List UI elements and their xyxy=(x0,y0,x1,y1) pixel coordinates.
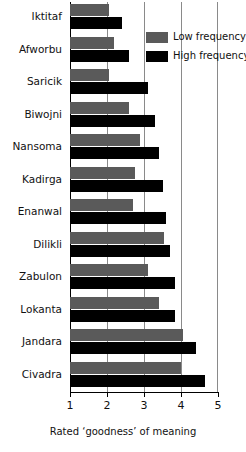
bar-chart: IktitafAfworbuSaricikBiwojniNansomaKadir… xyxy=(0,0,246,452)
bar-group xyxy=(70,165,218,198)
bar-high-frequency xyxy=(70,50,129,62)
category-label: Dilikli xyxy=(0,238,62,250)
category-label: Civadra xyxy=(0,368,62,380)
legend-swatch-low-frequency xyxy=(146,32,168,43)
chart-legend: Low frequency High frequency xyxy=(146,30,246,68)
bar-group xyxy=(70,100,218,133)
bar-high-frequency xyxy=(70,147,159,159)
legend-item-low-frequency: Low frequency xyxy=(146,30,246,46)
category-label: Lokanta xyxy=(0,303,62,315)
bar-group xyxy=(70,327,218,360)
bar-high-frequency xyxy=(70,310,175,322)
category-label: Kadirga xyxy=(0,173,62,185)
bar-high-frequency xyxy=(70,82,148,94)
bar-low-frequency xyxy=(70,264,148,276)
bar-low-frequency xyxy=(70,4,109,16)
category-label: Afworbu xyxy=(0,43,62,55)
x-axis-title: Rated ‘goodness’ of meaning xyxy=(0,425,246,438)
bar-high-frequency xyxy=(70,212,166,224)
bar-group xyxy=(70,197,218,230)
category-label: Iktitaf xyxy=(0,10,62,22)
legend-label-high-frequency: High frequency xyxy=(173,49,246,63)
bar-low-frequency xyxy=(70,69,109,81)
bar-group xyxy=(70,295,218,328)
category-label: Biwojni xyxy=(0,108,62,120)
bar-low-frequency xyxy=(70,199,133,211)
category-label: Zabulon xyxy=(0,270,62,282)
bar-high-frequency xyxy=(70,17,122,29)
bar-high-frequency xyxy=(70,245,170,257)
x-tick xyxy=(70,392,71,397)
bar-low-frequency xyxy=(70,167,135,179)
x-tick xyxy=(218,392,219,397)
bar-high-frequency xyxy=(70,342,196,354)
bar-low-frequency xyxy=(70,329,183,341)
bar-group xyxy=(70,67,218,100)
x-tick-label: 5 xyxy=(208,399,228,412)
category-labels: IktitafAfworbuSaricikBiwojniNansomaKadir… xyxy=(0,2,66,392)
category-label: Jandara xyxy=(0,335,62,347)
legend-label-low-frequency: Low frequency xyxy=(173,30,246,44)
category-label: Nansoma xyxy=(0,140,62,152)
bar-high-frequency xyxy=(70,277,175,289)
bar-low-frequency xyxy=(70,232,164,244)
x-tick-label: 2 xyxy=(97,399,117,412)
legend-swatch-high-frequency xyxy=(146,51,168,62)
x-tick xyxy=(107,392,108,397)
bar-group xyxy=(70,230,218,263)
category-label: Enanwal xyxy=(0,205,62,217)
x-tick xyxy=(181,392,182,397)
x-tick-label: 3 xyxy=(134,399,154,412)
bar-low-frequency xyxy=(70,362,181,374)
bar-group xyxy=(70,262,218,295)
x-tick-label: 4 xyxy=(171,399,191,412)
bar-low-frequency xyxy=(70,102,129,114)
bar-low-frequency xyxy=(70,297,159,309)
bar-group xyxy=(70,360,218,393)
legend-item-high-frequency: High frequency xyxy=(146,49,246,65)
bar-high-frequency xyxy=(70,180,163,192)
bar-low-frequency xyxy=(70,37,114,49)
bar-high-frequency xyxy=(70,115,155,127)
bar-high-frequency xyxy=(70,375,205,387)
x-tick xyxy=(144,392,145,397)
x-tick-label: 1 xyxy=(60,399,80,412)
bar-group xyxy=(70,132,218,165)
category-label: Saricik xyxy=(0,75,62,87)
bar-low-frequency xyxy=(70,134,140,146)
